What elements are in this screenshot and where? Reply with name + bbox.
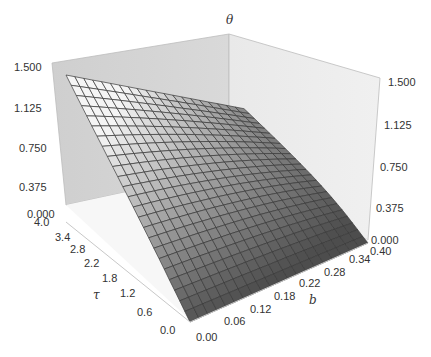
svg-text:0.0: 0.0	[160, 324, 175, 336]
svg-text:4.0: 4.0	[34, 216, 49, 228]
tau-axis-label: τ	[93, 288, 100, 302]
svg-text:3.4: 3.4	[55, 231, 70, 243]
z-axis-label: θ	[226, 13, 234, 27]
svg-text:2.8: 2.8	[70, 243, 85, 255]
svg-text:0.750: 0.750	[19, 142, 47, 154]
svg-text:0.06: 0.06	[224, 315, 245, 327]
b-axis-label: b	[309, 293, 317, 307]
svg-text:0.34: 0.34	[349, 253, 370, 265]
svg-text:1.2: 1.2	[120, 287, 135, 299]
svg-text:1.8: 1.8	[102, 272, 117, 284]
svg-text:0.375: 0.375	[19, 181, 47, 193]
svg-text:0.00: 0.00	[196, 331, 217, 343]
svg-text:0.28: 0.28	[324, 266, 345, 278]
svg-text:1.500: 1.500	[14, 61, 42, 73]
left-z-ticks: 1.500 1.125 0.750 0.375 0.000	[14, 61, 55, 220]
svg-text:0.375: 0.375	[376, 202, 404, 214]
svg-text:0.6: 0.6	[137, 306, 152, 318]
svg-text:1.125: 1.125	[384, 119, 412, 131]
svg-text:0.40: 0.40	[370, 245, 391, 257]
svg-text:1.125: 1.125	[14, 102, 42, 114]
svg-text:1.500: 1.500	[388, 76, 416, 88]
svg-text:0.22: 0.22	[299, 277, 320, 289]
svg-text:0.12: 0.12	[250, 303, 271, 315]
svg-text:2.2: 2.2	[84, 257, 99, 269]
svg-text:0.18: 0.18	[274, 290, 295, 302]
surface-plot: 1.500 1.125 0.750 0.375 0.000 1.500 1.12…	[0, 0, 431, 357]
svg-text:0.750: 0.750	[380, 161, 408, 173]
